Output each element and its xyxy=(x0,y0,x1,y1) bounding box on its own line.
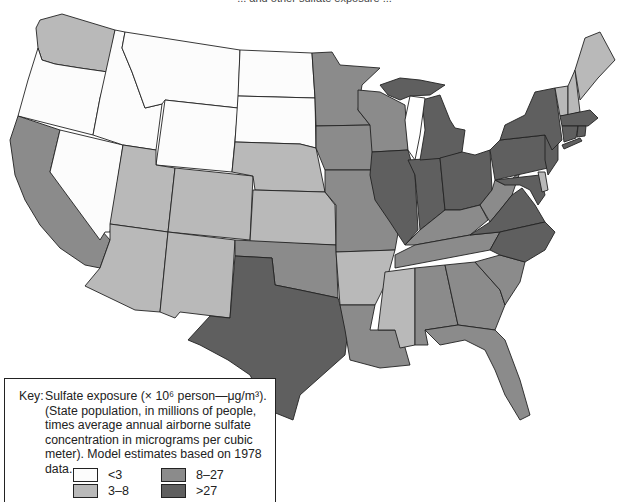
state-nd[interactable] xyxy=(238,50,315,98)
state-ri[interactable] xyxy=(577,126,586,137)
legend-key-label: Key: xyxy=(19,389,44,404)
legend-label-gt27: >27 xyxy=(196,484,217,498)
state-mi-lower[interactable] xyxy=(420,95,465,160)
legend-label-8-27: 8–27 xyxy=(196,468,224,482)
swatch-lt3 xyxy=(73,468,98,482)
legend-box: Key: Sulfate exposure (× 10⁶ person—μg/m… xyxy=(4,378,276,502)
legend-item-3-8: 3–8 xyxy=(73,484,129,498)
legend-description: Sulfate exposure (× 10⁶ person—μg/m³). (… xyxy=(45,389,269,477)
state-ks[interactable] xyxy=(250,190,336,245)
state-sd[interactable] xyxy=(235,96,316,148)
swatch-3-8 xyxy=(73,484,98,498)
legend-label-lt3: <3 xyxy=(108,468,122,482)
legend-label-3-8: 3–8 xyxy=(108,484,129,498)
state-wy[interactable] xyxy=(156,100,238,172)
state-co[interactable] xyxy=(168,168,253,240)
swatch-8-27 xyxy=(161,468,186,482)
legend-item-lt3: <3 xyxy=(73,468,122,482)
state-nm[interactable] xyxy=(160,232,235,318)
swatch-gt27 xyxy=(161,484,186,498)
legend-item-8-27: 8–27 xyxy=(161,468,224,482)
legend-item-gt27: >27 xyxy=(161,484,217,498)
state-me[interactable] xyxy=(575,32,615,100)
state-fl[interactable] xyxy=(425,325,530,420)
